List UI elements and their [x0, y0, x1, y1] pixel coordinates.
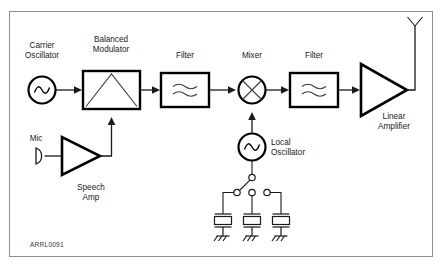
carrier-oscillator[interactable] [29, 77, 56, 104]
microphone-body [36, 148, 42, 164]
microphone-label: Mic [30, 134, 43, 143]
linear-amplifier-label-line1: Linear [383, 112, 406, 121]
crystal-2 [244, 214, 261, 236]
local-oscillator[interactable] [239, 134, 266, 161]
carrier-oscillator-label-line1: Carrier [29, 41, 54, 50]
speech-amp-body [62, 137, 100, 175]
ground-2 [243, 236, 259, 241]
mixer-label: Mixer [242, 51, 262, 60]
arrow-filter2-to-amplifier [352, 86, 360, 94]
filter-1-body [161, 73, 209, 107]
local-oscillator-label-line2: Oscillator [271, 148, 305, 157]
microphone[interactable] [36, 148, 62, 164]
local-oscillator-label-line1: Local [271, 138, 291, 147]
arrow-speech-amp-to-modulator [108, 117, 116, 125]
ground-3 [272, 236, 288, 241]
block-diagram: Carrier Oscillator Balanced Modulator Fi… [0, 0, 446, 271]
linear-amplifier-body [361, 64, 407, 116]
crystal-3-body [273, 217, 290, 225]
carrier-oscillator-label-line2: Oscillator [25, 51, 59, 60]
speech-amp-label-line1: Speech [77, 183, 105, 192]
switch-blade [240, 180, 250, 190]
switch-contact-1 [234, 189, 240, 195]
balanced-modulator-label-line1: Balanced [94, 35, 129, 44]
crystal-3 [273, 214, 290, 236]
balanced-modulator-body [83, 71, 140, 109]
balanced-modulator[interactable] [83, 71, 140, 109]
arrow-filter1-to-mixer [228, 86, 236, 94]
filter-1-label: Filter [176, 51, 194, 60]
speech-amp-label-line2: Amp [83, 193, 100, 202]
switch-contact-2 [249, 189, 255, 195]
crystal-1 [215, 214, 232, 236]
balanced-modulator-label-line2: Modulator [93, 45, 130, 54]
antenna[interactable] [407, 17, 423, 90]
arrow-lo-to-mixer [248, 112, 256, 120]
mixer[interactable] [239, 77, 266, 104]
switch-pole-contact [249, 174, 255, 180]
antenna-v-element [408, 17, 423, 26]
crystal-2-body [244, 217, 261, 225]
crystal-1-body [215, 217, 232, 225]
switch-contact-3 [264, 189, 270, 195]
wire-contact3-to-crystal3 [270, 193, 281, 215]
arrow-mixer-to-filter2 [281, 86, 289, 94]
wire-contact1-to-crystal1 [223, 193, 234, 215]
figure-tag: ARRL0091 [30, 241, 64, 248]
speech-amp[interactable] [62, 137, 100, 175]
antenna-feedline [407, 26, 415, 90]
ground-1 [214, 236, 230, 241]
linear-amplifier-label-line2: Amplifier [378, 122, 410, 131]
filter-2[interactable] [290, 73, 338, 107]
filter-2-body [290, 73, 338, 107]
wire-speech-amp-to-modulator [100, 125, 112, 156]
arrow-carrier-to-modulator [74, 86, 82, 94]
filter-1[interactable] [161, 73, 209, 107]
filter-2-label: Filter [305, 51, 323, 60]
arrow-modulator-to-filter1 [152, 86, 160, 94]
linear-amplifier[interactable] [361, 64, 407, 116]
crystal-switch[interactable] [214, 161, 290, 242]
figure-canvas: Carrier Oscillator Balanced Modulator Fi… [0, 0, 446, 271]
